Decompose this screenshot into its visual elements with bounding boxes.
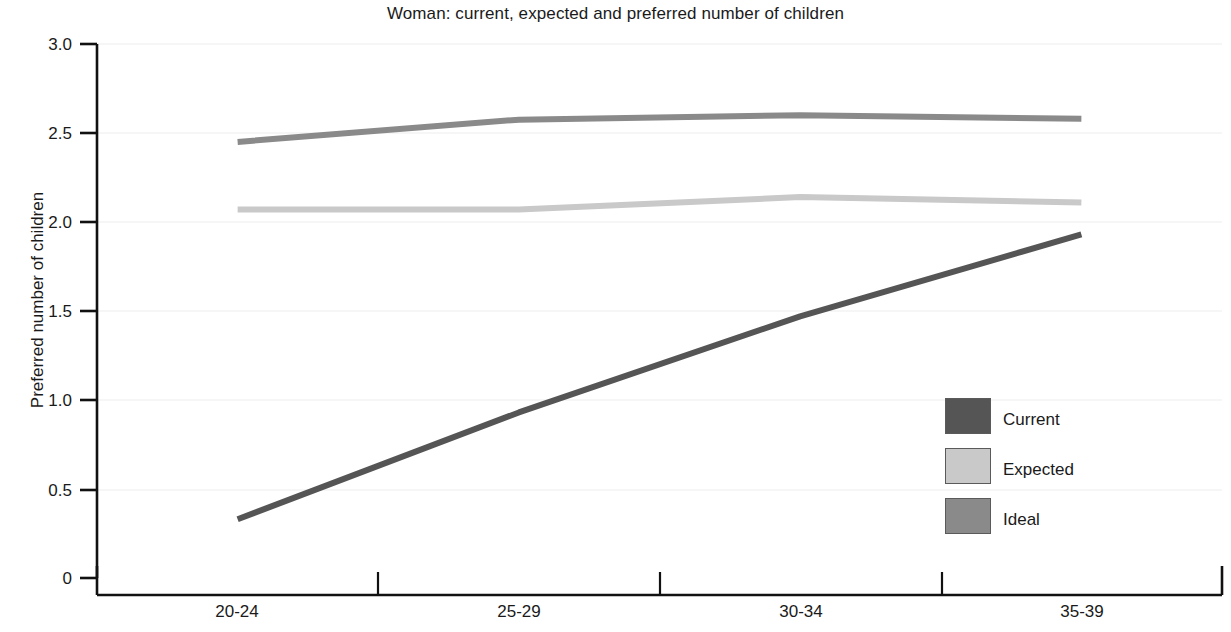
legend-swatch-ideal — [945, 498, 991, 534]
y-axis — [80, 44, 97, 578]
legend-label-ideal: Ideal — [1003, 511, 1040, 528]
legend-label-expected: Expected — [1003, 461, 1074, 478]
x-tick-label-30-34: 30-34 — [751, 603, 851, 620]
x-tick-label-20-24: 20-24 — [187, 603, 287, 620]
legend-swatch-current — [945, 398, 991, 434]
series-line-ideal — [238, 115, 1082, 142]
legend-swatch-expected — [945, 448, 991, 484]
x-axis — [97, 566, 1222, 595]
x-tick-label-35-39: 35-39 — [1032, 603, 1132, 620]
chart-container: Woman: current, expected and preferred n… — [0, 0, 1231, 632]
x-tick-label-25-29: 25-29 — [469, 603, 569, 620]
series-line-expected — [238, 197, 1082, 209]
legend-label-current: Current — [1003, 411, 1060, 428]
plot-area — [0, 0, 1231, 632]
